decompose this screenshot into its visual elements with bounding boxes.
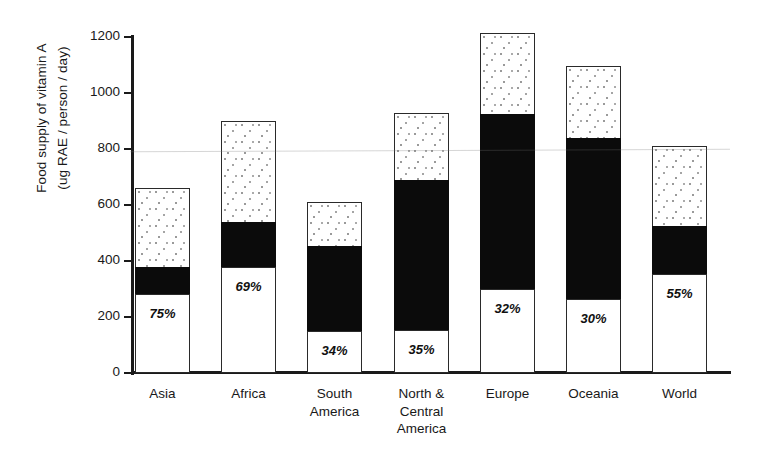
y-tick-400 <box>124 260 132 262</box>
x-label-line: America <box>374 420 470 438</box>
bar-percent-label: 32% <box>480 301 535 316</box>
y-tick-label-600: 600 <box>60 196 120 211</box>
bar-segment-dotted <box>652 146 707 226</box>
bar-segment-dotted <box>394 113 449 180</box>
x-label-line: North & <box>374 385 470 403</box>
bar-segment-black <box>307 246 362 331</box>
x-label-asia: Asia <box>115 385 211 403</box>
x-label-oceania: Oceania <box>546 385 642 403</box>
y-tick-label-0: 0 <box>60 364 120 379</box>
bar-segment-black <box>652 226 707 274</box>
x-label-line: Europe <box>460 385 556 403</box>
bar-percent-label: 69% <box>221 279 276 294</box>
y-tick-1200 <box>124 36 132 38</box>
bar-segment-black <box>135 267 190 294</box>
x-label-europe: Europe <box>460 385 556 403</box>
x-label-world: World <box>632 385 728 403</box>
bar-segment-dotted <box>307 202 362 246</box>
y-tick-label-400: 400 <box>60 252 120 267</box>
bar-segment-dotted <box>221 121 276 222</box>
x-label-line: America <box>287 403 383 421</box>
y-tick-800 <box>124 148 132 150</box>
y-tick-200 <box>124 316 132 318</box>
bar-percent-label: 30% <box>566 311 621 326</box>
bar-percent-label: 75% <box>135 306 190 321</box>
y-tick-label-800: 800 <box>60 140 120 155</box>
vitamin-a-food-supply-chart: Food supply of vitamin A (ug RAE / perso… <box>0 0 774 458</box>
y-tick-600 <box>124 204 132 206</box>
x-label-africa: Africa <box>201 385 297 403</box>
x-label-line: Asia <box>115 385 211 403</box>
y-tick-label-200: 200 <box>60 308 120 323</box>
x-label-line: Africa <box>201 385 297 403</box>
x-label-line: Oceania <box>546 385 642 403</box>
x-label-line: South <box>287 385 383 403</box>
plot-area: 020040060080010001200 75%69%34%35%32%30%… <box>0 0 774 458</box>
bar-segment-dotted <box>135 188 190 267</box>
y-tick-1000 <box>124 92 132 94</box>
y-tick-0 <box>124 372 132 374</box>
bar-segment-dotted <box>566 66 621 137</box>
y-tick-label-1200: 1200 <box>60 28 120 43</box>
bar-segment-black <box>394 180 449 330</box>
bar-segment-dotted <box>480 33 535 114</box>
bar-percent-label: 35% <box>394 342 449 357</box>
bar-segment-black <box>566 138 621 299</box>
bar-segment-black <box>221 222 276 267</box>
bar-segment-black <box>480 114 535 289</box>
bar-percent-label: 34% <box>307 343 362 358</box>
x-label-line: World <box>632 385 728 403</box>
x-label-south-america: SouthAmerica <box>287 385 383 420</box>
y-tick-label-1000: 1000 <box>60 84 120 99</box>
x-label-line: Central <box>374 403 470 421</box>
x-label-north-central-america: North &CentralAmerica <box>374 385 470 438</box>
bar-percent-label: 55% <box>652 286 707 301</box>
